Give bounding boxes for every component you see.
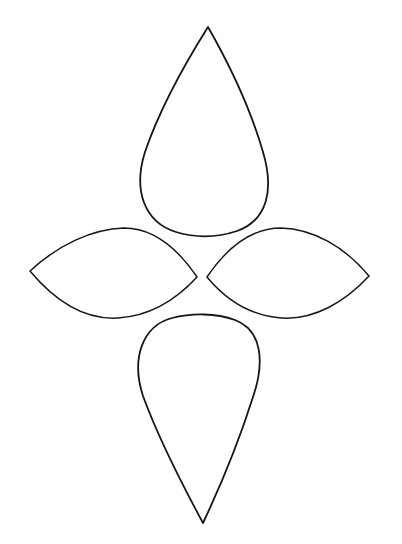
four-petal-flower-drawing — [0, 0, 402, 544]
drawing-canvas — [0, 0, 402, 544]
